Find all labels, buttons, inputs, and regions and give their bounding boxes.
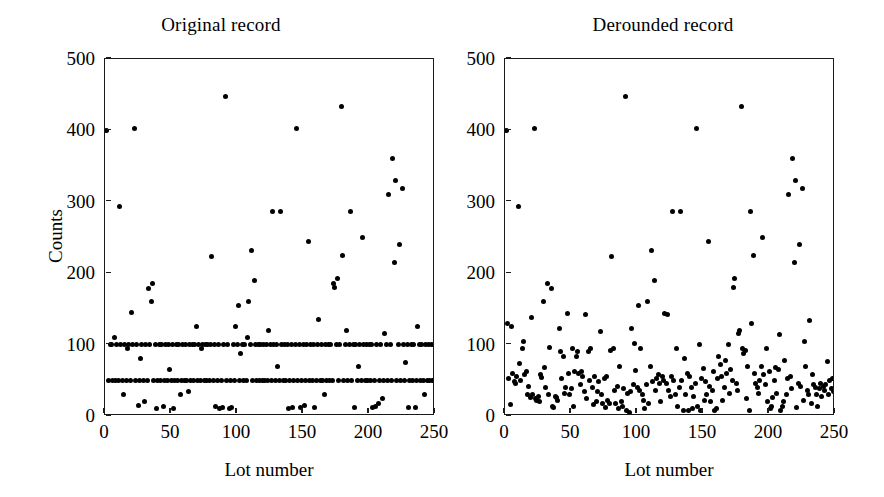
data-point — [563, 385, 568, 390]
x-tick-label: 50 — [140, 422, 200, 441]
data-point — [129, 310, 134, 315]
data-point — [737, 328, 742, 333]
data-point — [722, 385, 727, 390]
data-point — [748, 209, 753, 214]
data-point — [744, 396, 749, 401]
data-point — [557, 326, 562, 331]
data-point — [332, 285, 337, 290]
data-point — [704, 392, 709, 397]
x-tick-mark — [367, 408, 368, 413]
data-point — [665, 312, 670, 317]
x-axis-label-right: Lot number — [448, 459, 884, 481]
data-point — [809, 401, 814, 406]
data-point — [565, 311, 570, 316]
data-point — [826, 392, 831, 397]
data-point — [681, 408, 686, 413]
data-point — [539, 375, 544, 380]
data-point — [629, 326, 634, 331]
data-point — [763, 382, 768, 387]
y-axis-label-left: Counts — [45, 186, 67, 286]
data-point — [516, 204, 521, 209]
data-point — [697, 342, 702, 347]
data-point — [664, 381, 669, 386]
plot-frame-right — [504, 58, 834, 415]
y-tick-mark — [106, 414, 111, 415]
data-point — [566, 371, 571, 376]
y-tick-mark — [106, 343, 111, 344]
data-point — [352, 405, 357, 410]
data-point — [638, 346, 643, 351]
data-point — [520, 346, 525, 351]
data-point — [587, 378, 592, 383]
data-point — [245, 335, 250, 340]
data-point — [413, 405, 418, 410]
y-tick-mark — [506, 200, 511, 201]
data-point — [294, 126, 299, 131]
data-point — [710, 388, 715, 393]
data-point — [389, 378, 394, 383]
x-tick-label: 0 — [74, 422, 134, 441]
data-point — [588, 346, 593, 351]
panel-original-record: Original record 0100200300400500 0501001… — [0, 0, 442, 497]
data-point — [810, 372, 815, 377]
data-point — [337, 342, 342, 347]
y-tick-mark — [106, 200, 111, 201]
data-point — [603, 405, 608, 410]
data-point — [632, 341, 637, 346]
data-point — [652, 278, 657, 283]
figure-two-panel-scatter: Original record 0100200300400500 0501001… — [0, 0, 884, 497]
data-point — [776, 367, 781, 372]
data-point — [112, 335, 117, 340]
data-point — [720, 398, 725, 403]
x-tick-mark — [569, 408, 570, 413]
data-point — [677, 385, 682, 390]
data-point — [594, 399, 599, 404]
scatter-points-right — [505, 59, 833, 414]
data-point — [235, 342, 240, 347]
data-point — [599, 392, 604, 397]
data-point — [683, 392, 688, 397]
data-point — [356, 364, 361, 369]
data-point — [521, 339, 526, 344]
data-point — [690, 406, 695, 411]
data-point — [388, 342, 393, 347]
data-point — [756, 391, 761, 396]
data-point — [774, 391, 779, 396]
data-point — [578, 382, 583, 387]
data-point — [529, 315, 534, 320]
data-point — [121, 392, 126, 397]
data-point — [238, 351, 243, 356]
data-point — [782, 358, 787, 363]
data-point — [147, 342, 152, 347]
data-point — [678, 209, 683, 214]
data-point — [830, 376, 833, 381]
data-point — [547, 345, 552, 350]
data-point — [671, 378, 676, 383]
data-point — [411, 342, 416, 347]
data-point — [517, 361, 522, 366]
data-point — [751, 253, 756, 258]
data-point — [232, 378, 237, 383]
data-point — [823, 382, 828, 387]
data-point — [580, 374, 585, 379]
data-point — [178, 392, 183, 397]
x-tick-label: 200 — [738, 422, 798, 441]
data-point — [541, 299, 546, 304]
data-point — [562, 391, 567, 396]
data-point — [146, 286, 151, 291]
data-point — [739, 104, 744, 109]
data-point — [349, 378, 354, 383]
data-point — [693, 381, 698, 386]
y-tick-label: 100 — [35, 335, 95, 354]
data-point — [781, 399, 786, 404]
data-point — [645, 299, 650, 304]
data-point — [150, 281, 155, 286]
y-tick-mark — [506, 57, 511, 58]
data-point — [767, 369, 772, 374]
data-point — [330, 378, 335, 383]
data-point — [543, 385, 548, 390]
x-tick-label: 150 — [672, 422, 732, 441]
data-point — [302, 403, 307, 408]
data-point — [613, 401, 618, 406]
data-point — [223, 94, 228, 99]
